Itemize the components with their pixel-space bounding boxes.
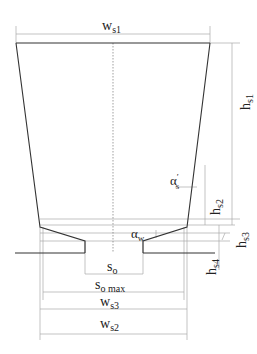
label-hs2: hs2 [208,199,225,215]
slot-left-side [16,43,85,253]
label-so: so [107,259,117,276]
hs3-leader [222,233,225,240]
label-so-max: so max [95,277,125,294]
slot-right-side [143,43,210,253]
label-alpha-s: α′s [170,172,180,191]
label-ws3: ws3 [100,294,119,311]
label-ws1: ws1 [102,18,121,35]
slot-diagram-svg: ws1 hs1 α′s hs2 αw hs3 hs4 so so max ws3… [0,0,257,354]
label-hs4: hs4 [204,259,221,275]
label-hs3: hs3 [234,232,251,248]
label-alpha-w: αw [131,226,145,243]
slot-outline [15,43,215,253]
label-ws2: ws2 [100,316,119,333]
slot-diagram: ws1 hs1 α′s hs2 αw hs3 hs4 so so max ws3… [0,0,257,354]
label-hs1: hs1 [238,94,255,110]
